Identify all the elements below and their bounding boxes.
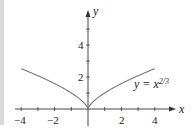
- curve-equation-label: y = x2/3: [133, 77, 169, 91]
- y-tick-label: 2: [78, 71, 84, 83]
- x-axis-label: x: [178, 102, 185, 116]
- x-tick-label: 2: [119, 114, 125, 126]
- x-tick-label: −2: [47, 114, 59, 126]
- chart-canvas: −4 −2 2 4 2 4 x y y = x2/3: [0, 0, 192, 138]
- x-tick-label: 4: [152, 114, 158, 126]
- x-axis-arrow-icon: [169, 107, 176, 112]
- y-axis-label: y: [92, 4, 99, 18]
- y-axis-arrow-icon: [86, 10, 91, 17]
- y-tick-label: 4: [78, 39, 84, 51]
- x-tick-label: −4: [14, 114, 26, 126]
